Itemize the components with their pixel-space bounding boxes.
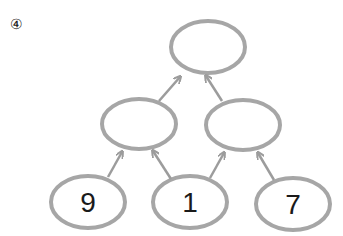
middle-right-node[interactable] <box>206 100 280 150</box>
problem-number: ④ <box>10 16 23 32</box>
arrow-br-to-mr <box>258 153 274 180</box>
top-node[interactable] <box>171 21 245 73</box>
arrow-ml-to-top <box>159 77 180 101</box>
middle-left-node[interactable] <box>102 99 176 149</box>
arrow-bm-to-ml <box>153 151 171 179</box>
bottom-left-node-value: 9 <box>80 187 96 219</box>
bottom-right-node-value: 7 <box>285 189 301 221</box>
bottom-middle-node-value: 1 <box>182 187 198 219</box>
arrow-bm-to-mr <box>210 153 224 178</box>
arrow-mr-to-top <box>206 76 222 101</box>
arrow-bl-to-ml <box>108 152 122 177</box>
